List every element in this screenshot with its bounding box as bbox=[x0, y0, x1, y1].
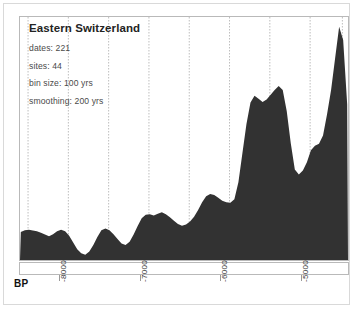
chart-card: Eastern Switzerland dates: 221 sites: 44… bbox=[3, 3, 350, 305]
tick-label: -5000 bbox=[301, 260, 310, 282]
plot-area bbox=[19, 16, 349, 261]
spd-area-chart bbox=[20, 17, 348, 260]
x-axis-label: BP bbox=[14, 278, 28, 289]
tick-label: -7000 bbox=[140, 260, 149, 282]
x-axis-ticks: -8000-7000-6000-5000 bbox=[19, 275, 349, 309]
tick-label: -8000 bbox=[59, 260, 68, 282]
tick-label: -6000 bbox=[220, 260, 229, 282]
x-axis-strip bbox=[19, 262, 349, 275]
area-series-path bbox=[20, 27, 348, 260]
